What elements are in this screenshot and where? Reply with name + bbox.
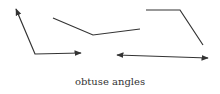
caption: obtuse angles <box>0 76 220 87</box>
angle-2 <box>53 18 140 35</box>
angle-3 <box>146 10 203 45</box>
straight-line <box>117 55 208 58</box>
angle-1 <box>16 9 81 54</box>
